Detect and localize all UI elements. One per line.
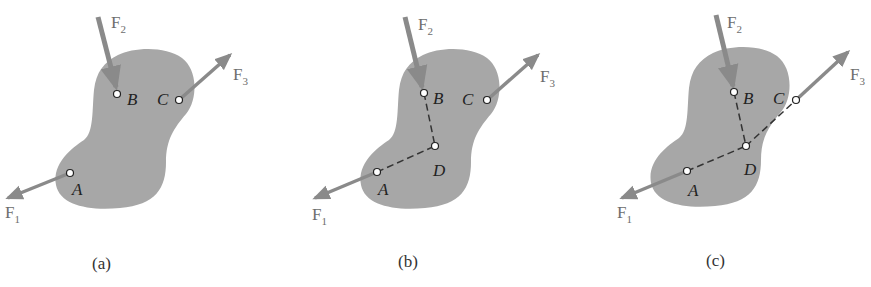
rigid-body — [650, 47, 789, 207]
force-label-f2: F2 — [111, 13, 126, 35]
point-label-a: A — [687, 181, 699, 200]
point-label-c: C — [462, 90, 474, 109]
point-label-b: B — [127, 90, 138, 109]
panel-c: B C A D F2 F3 F1 (c) — [617, 13, 865, 270]
figure-canvas: B C A F2 F3 F1 (a) B C A D F2 F3 F1 (b) — [0, 0, 871, 287]
point-label-a: A — [377, 180, 389, 199]
force-label-f2: F2 — [727, 13, 742, 35]
point-a-marker — [67, 170, 74, 177]
point-a-marker — [374, 169, 381, 176]
panel-b: B C A D F2 F3 F1 (b) — [312, 15, 555, 271]
force-label-f1: F1 — [312, 205, 327, 227]
force-label-f1: F1 — [617, 203, 632, 225]
force-arrow-f3 — [796, 52, 848, 100]
caption-a: (a) — [92, 254, 111, 273]
force-label-f2: F2 — [418, 15, 433, 37]
point-label-b: B — [743, 89, 754, 108]
point-c-marker — [793, 97, 800, 104]
force-label-f1: F1 — [5, 203, 20, 225]
caption-b: (b) — [398, 252, 418, 271]
caption-c: (c) — [706, 251, 725, 270]
point-b-marker — [731, 89, 738, 96]
point-d-marker — [432, 143, 439, 150]
point-label-b: B — [433, 89, 444, 108]
point-b-marker — [421, 90, 428, 97]
point-label-d: D — [743, 160, 757, 179]
point-label-c: C — [157, 90, 169, 109]
point-label-d: D — [432, 161, 446, 180]
point-a-marker — [684, 168, 691, 175]
point-c-marker — [484, 97, 491, 104]
point-label-c: C — [773, 89, 785, 108]
point-c-marker — [176, 97, 183, 104]
point-label-a: A — [71, 180, 83, 199]
point-d-marker — [743, 143, 750, 150]
force-label-f3: F3 — [850, 65, 865, 87]
panel-a: B C A F2 F3 F1 (a) — [5, 13, 248, 273]
point-b-marker — [114, 91, 121, 98]
force-label-f3: F3 — [540, 67, 555, 89]
force-label-f3: F3 — [233, 65, 248, 87]
